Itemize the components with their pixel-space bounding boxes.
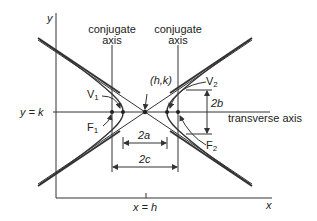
y-axis-label: y — [47, 13, 53, 24]
x-axis-label: x — [266, 200, 272, 211]
v1-label: V1 — [87, 89, 99, 103]
f2-letter: F — [206, 139, 213, 151]
right-conjugate-axis-label: conjugate axis — [150, 24, 206, 46]
v2-point — [165, 110, 169, 114]
center-point — [143, 110, 147, 114]
f1-point — [110, 110, 114, 114]
x-eq-h-label: x = h — [133, 202, 157, 213]
2c-label: 2c — [139, 154, 151, 165]
f1-sub: 1 — [94, 126, 98, 135]
v1-leader — [102, 96, 120, 108]
center-leader — [145, 94, 147, 109]
right-conjugate-line2: axis — [150, 35, 206, 46]
2b-label: 2b — [211, 98, 223, 109]
2a-label: 2a — [138, 130, 150, 141]
v1-point — [121, 110, 125, 114]
hyperbola-diagram: y x conjugate axis conjugate axis (h,k) … — [0, 0, 317, 221]
center-label: (h,k) — [150, 75, 172, 86]
v2-label: V2 — [206, 76, 218, 90]
f1-label: F1 — [87, 122, 98, 136]
f2-label: F2 — [206, 140, 217, 154]
f2-point — [176, 110, 180, 114]
f1-letter: F — [87, 121, 94, 133]
transverse-axis-label: transverse axis — [228, 113, 302, 124]
f2-sub: 2 — [213, 144, 217, 153]
f1-leader — [103, 115, 111, 126]
left-conjugate-axis-label: conjugate axis — [84, 24, 140, 46]
y-eq-k-label: y = k — [20, 107, 44, 118]
left-conjugate-line2: axis — [84, 35, 140, 46]
v2-sub: 2 — [213, 80, 217, 89]
v1-sub: 1 — [94, 93, 98, 102]
